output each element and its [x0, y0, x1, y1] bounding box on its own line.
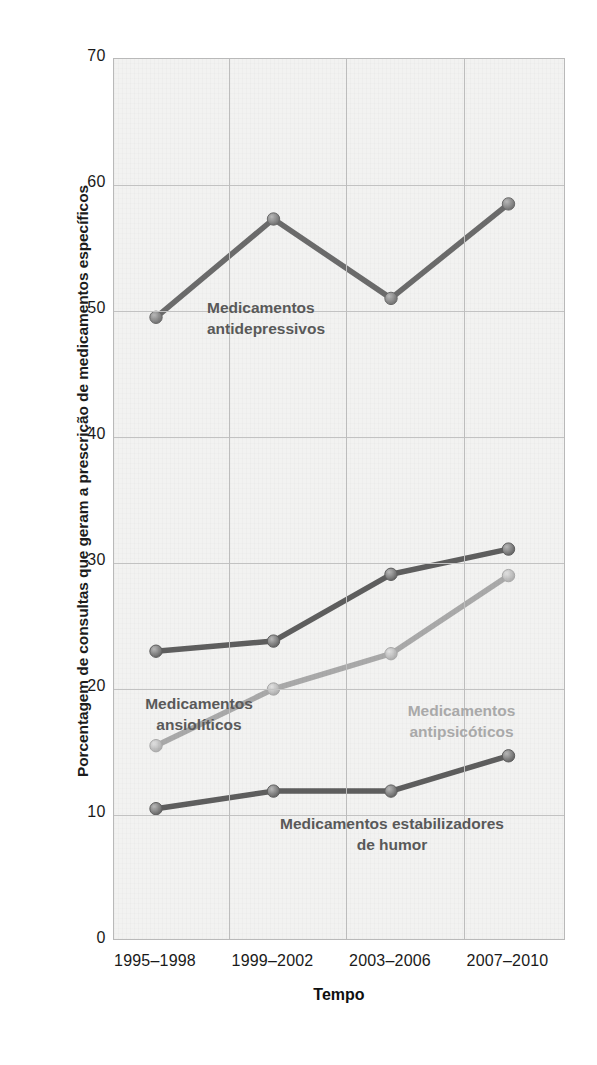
y-tick-label: 60 [60, 173, 106, 191]
data-point-marker [502, 198, 514, 210]
horizontal-gridline [114, 563, 564, 564]
series-2 [150, 543, 515, 658]
data-point-marker [267, 785, 279, 797]
data-point-marker [267, 213, 279, 225]
vertical-gridline [346, 59, 347, 939]
data-point-marker [267, 635, 279, 647]
y-tick-label: 50 [60, 299, 106, 317]
series-4 [150, 750, 515, 815]
x-tick-label: 2007–2010 [467, 952, 549, 970]
plot-area: Medicamentos antidepressivosMedicamentos… [113, 58, 565, 940]
x-axis-tick-labels: 1995–19981999–20022003–20062007–2010 [113, 952, 565, 982]
horizontal-gridline [114, 185, 564, 186]
data-point-marker [385, 785, 397, 797]
y-tick-label: 20 [60, 677, 106, 695]
series-layer [114, 59, 565, 940]
data-point-marker [502, 543, 514, 555]
data-point-marker [502, 569, 514, 581]
series-line [156, 549, 509, 651]
data-point-marker [150, 740, 162, 752]
series-label-antipsicoticos: Medicamentos antipsicóticos [369, 701, 554, 742]
data-point-marker [150, 803, 162, 815]
y-tick-label: 40 [60, 425, 106, 443]
y-tick-label: 0 [60, 929, 106, 947]
y-tick-label: 10 [60, 803, 106, 821]
data-point-marker [150, 645, 162, 657]
data-point-marker [502, 750, 514, 762]
x-axis-title: Tempo [113, 986, 565, 1004]
vertical-gridline [464, 59, 465, 939]
series-label-antidepressivos: Medicamentos antidepressivos [207, 298, 325, 339]
series-label-ansioliticos: Medicamentos ansiolíticos [114, 694, 284, 735]
vertical-gridline [229, 59, 230, 939]
data-point-marker [385, 568, 397, 580]
y-tick-label: 30 [60, 551, 106, 569]
series-1 [150, 198, 515, 324]
y-axis-tick-labels: 010203040506070 [48, 0, 106, 1065]
series-line [156, 756, 509, 809]
x-tick-label: 2003–2006 [349, 952, 431, 970]
y-tick-label: 70 [60, 47, 106, 65]
x-tick-label: 1999–2002 [232, 952, 314, 970]
series-label-estabilizadores: Medicamentos estabilizadores de humor [232, 814, 552, 855]
horizontal-gridline [114, 437, 564, 438]
data-point-marker [385, 292, 397, 304]
horizontal-gridline [114, 689, 564, 690]
line-chart-figure: Porcentagem de consultas que geram a pre… [0, 0, 597, 1065]
horizontal-gridline [114, 311, 564, 312]
data-point-marker [150, 311, 162, 323]
x-tick-label: 1995–1998 [114, 952, 196, 970]
data-point-marker [385, 648, 397, 660]
